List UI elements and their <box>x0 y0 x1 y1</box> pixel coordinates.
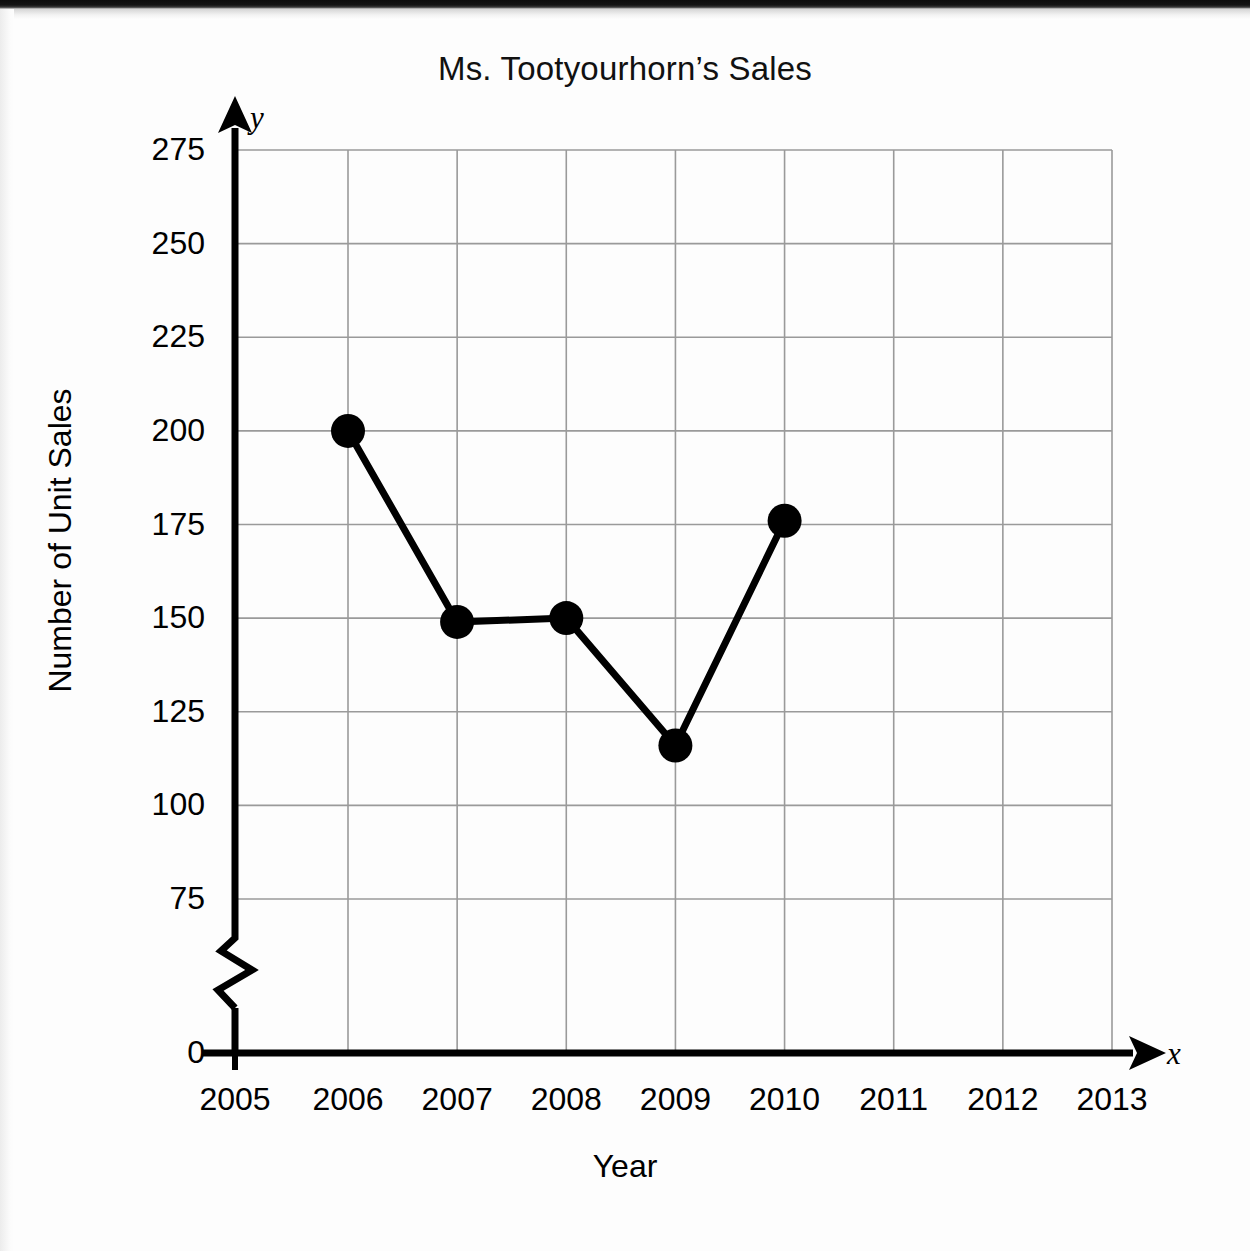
x-tick-label-2005: 2005 <box>170 1083 300 1115</box>
y-axis-title: Number of Unit Sales <box>42 301 79 781</box>
y-tick-label-275: 275 <box>85 133 205 165</box>
x-tick-label-2013: 2013 <box>1047 1083 1177 1115</box>
y-tick-label-75: 75 <box>85 882 205 914</box>
y-axis-letter: y <box>250 100 264 136</box>
data-point-2009 <box>658 729 692 763</box>
figure-page: Ms. Tootyourhorn’s Sales 075100125150175… <box>0 0 1250 1251</box>
y-tick-label-200: 200 <box>85 414 205 446</box>
x-axis-title: Year <box>0 1148 1250 1185</box>
y-axis-break-zigzag <box>218 128 252 1008</box>
y-tick-label-175: 175 <box>85 508 205 540</box>
data-point-2006 <box>331 414 365 448</box>
data-point-2007 <box>440 605 474 639</box>
y-tick-label-100: 100 <box>85 788 205 820</box>
x-axis-letter: x <box>1167 1036 1181 1072</box>
y-tick-label-125: 125 <box>85 695 205 727</box>
y-axis-arrowhead <box>218 96 252 133</box>
x-axis-arrowhead <box>1129 1036 1166 1070</box>
y-tick-label-0: 0 <box>85 1036 205 1068</box>
y-tick-label-250: 250 <box>85 227 205 259</box>
y-axis <box>218 96 252 1053</box>
horizontal-gridlines <box>235 150 1112 899</box>
data-point-2010 <box>768 504 802 538</box>
vertical-gridlines <box>348 150 1112 1053</box>
y-tick-label-150: 150 <box>85 601 205 633</box>
y-tick-label-225: 225 <box>85 320 205 352</box>
data-point-2008 <box>549 601 583 635</box>
